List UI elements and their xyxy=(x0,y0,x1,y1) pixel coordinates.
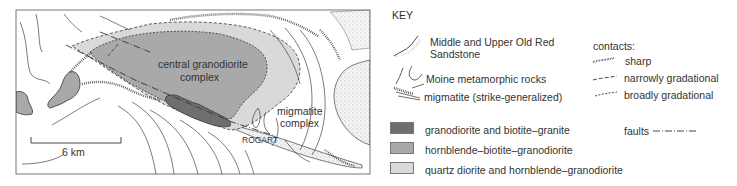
sandstone-area-ne xyxy=(330,10,370,50)
scale-label: 6 km xyxy=(62,146,85,158)
key-title: KEY xyxy=(392,9,413,21)
west-granodiorite-lobe xyxy=(48,72,80,108)
contact-label-broad: broadly gradational xyxy=(624,89,713,101)
migmatite-complex-label-1: migmatite xyxy=(277,105,323,117)
scale-bar xyxy=(31,137,121,143)
contacts-title: contacts: xyxy=(593,40,635,52)
contact-label-narrow: narrowly gradational xyxy=(624,72,719,84)
key-label-sandstone-2: Sandstone xyxy=(430,48,480,60)
contact-label-sharp: sharp xyxy=(625,55,651,67)
swatch-granodiorite-biotite-granite xyxy=(390,122,414,134)
sharp-contact-icon xyxy=(593,58,614,62)
sandstone-strip-rogart xyxy=(232,125,362,168)
migmatite-symbol xyxy=(394,84,424,100)
fill-label-quartz-diorite: quartz diorite and hornblende–granodiori… xyxy=(425,164,623,176)
migmatite-hatch-ne xyxy=(320,30,340,60)
broadly-gradational-icon xyxy=(595,92,617,96)
key-label-moine: Moine metamorphic rocks xyxy=(426,73,546,85)
fill-label-granodiorite-biotite-granite: granodiorite and biotite–granite xyxy=(425,124,570,136)
swatch-hornblende-biotite-granodiorite xyxy=(390,142,414,154)
central-complex-label-1: central granodiorite xyxy=(158,58,248,70)
far-west-granodiorite xyxy=(16,91,33,114)
swatch-quartz-diorite xyxy=(390,162,414,174)
key-label-sandstone-1: Middle and Upper Old Red xyxy=(430,36,554,48)
key-label-migmatite: migmatite (strike-generalized) xyxy=(424,91,562,103)
narrowly-gradational-icon xyxy=(593,76,617,80)
place-label-rogart: ROGART xyxy=(242,134,278,146)
fill-label-hornblende-biotite-granodiorite: hornblende–biotite–granodiorite xyxy=(425,144,573,156)
central-complex-label-2: complex xyxy=(180,71,219,83)
faults-label: faults xyxy=(624,125,649,137)
sandstone-area-east xyxy=(334,60,370,145)
moine-symbol xyxy=(396,66,422,84)
sandstone-symbol xyxy=(394,36,421,57)
migmatite-complex-label-2: complex xyxy=(280,117,319,129)
